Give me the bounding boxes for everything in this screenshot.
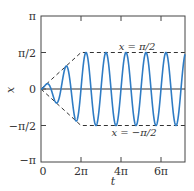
x-tick-label: 6π (154, 165, 168, 178)
x-tick-label: 0 (40, 165, 47, 178)
y-tick-label: π/2 (18, 47, 36, 60)
y-tick-label: π (29, 10, 36, 23)
y-axis-label: x (4, 86, 17, 93)
y-tick-label: −π/2 (9, 120, 36, 133)
x-tick-label: 2π (74, 165, 88, 178)
y-tick-label: 0 (29, 83, 36, 96)
annotation-upper: x = π/2 (119, 41, 156, 52)
annotation-lower: x = −π/2 (111, 127, 156, 138)
x-axis-label: t (111, 175, 116, 188)
x-tick-label: 4π (114, 165, 128, 178)
chart: 02π4π6πππ/20−π/2−π t x x = π/2 x = −π/2 (0, 0, 194, 191)
y-tick-label: −π (20, 154, 36, 167)
